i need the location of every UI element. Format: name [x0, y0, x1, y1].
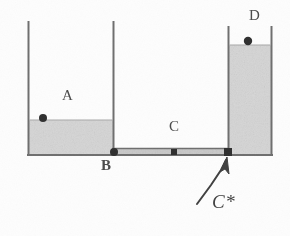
vessels-diagram [0, 0, 290, 236]
label-vessel-d: D [249, 8, 260, 23]
arrow-head-icon [220, 157, 229, 174]
label-channel-c: C [169, 119, 179, 134]
marker-b-dot [110, 148, 118, 156]
label-point-c-star: C* [212, 192, 235, 211]
marker-d-surface-dot [244, 37, 252, 45]
label-vessel-a: A [62, 88, 73, 103]
marker-a-surface-dot [39, 114, 47, 122]
figure-container: A B C D C* [0, 0, 290, 236]
label-point-b: B [101, 158, 111, 173]
marker-c-star-dot [224, 148, 232, 156]
marker-c-mid-dot [171, 149, 177, 155]
